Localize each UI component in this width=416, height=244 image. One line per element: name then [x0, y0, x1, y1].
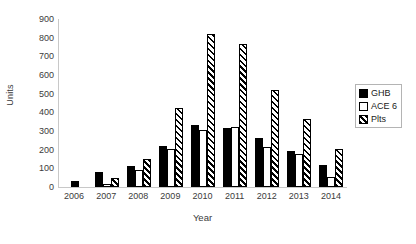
bar-ace6-2012: [263, 147, 271, 187]
bars-layer: [59, 19, 347, 187]
x-axis-title: Year: [58, 212, 347, 223]
legend-item-label: ACE 6: [371, 101, 397, 111]
y-axis-tick-label: 0: [22, 182, 54, 192]
x-axis-tick-label: 2014: [315, 191, 347, 201]
year-group: [187, 19, 219, 187]
solid-black-swatch: [359, 89, 368, 98]
x-axis-tick-label: 2011: [219, 191, 251, 201]
bar-plts-2009: [175, 108, 183, 187]
year-group: [155, 19, 187, 187]
bar-plts-2012: [271, 90, 279, 187]
bar-ace6-2009: [167, 149, 175, 187]
bar-ghb-2010: [191, 125, 199, 187]
bar-plts-2014: [335, 149, 343, 187]
year-group: [251, 19, 283, 187]
x-axis-tick-label: 2012: [251, 191, 283, 201]
bar-ace6-2010: [199, 130, 207, 187]
bar-ace6-2007: [103, 184, 111, 187]
x-axis-tick-label: 2008: [122, 191, 154, 201]
bar-plts-2007: [111, 178, 119, 187]
dotted-swatch: [359, 102, 368, 111]
x-axis-tick-label: 2013: [283, 191, 315, 201]
y-axis-title: Units: [5, 65, 15, 125]
bar-ghb-2012: [255, 138, 263, 187]
y-axis-tick-label: 200: [22, 145, 54, 155]
year-group: [91, 19, 123, 187]
x-axis-tick-labels: 200620072008200920102011201220132014: [58, 191, 347, 201]
legend-item-label: GHB: [371, 88, 391, 98]
year-group: [123, 19, 155, 187]
x-axis-tick-label: 2009: [154, 191, 186, 201]
bar-ace6-2014: [327, 177, 335, 187]
legend-item[interactable]: Plts: [359, 114, 397, 124]
bar-ghb-2007: [95, 172, 103, 187]
year-group: [315, 19, 347, 187]
y-axis-tick-label: 900: [22, 14, 54, 24]
x-axis-tick-label: 2007: [90, 191, 122, 201]
bar-ghb-2006: [71, 181, 79, 187]
bar-plts-2008: [143, 159, 151, 187]
y-axis-tick-label: 300: [22, 126, 54, 136]
bar-ghb-2008: [127, 166, 135, 187]
bar-plts-2011: [239, 44, 247, 187]
bar-ghb-2014: [319, 165, 327, 187]
x-axis-tick-label: 2006: [58, 191, 90, 201]
x-axis-tick-label: 2010: [186, 191, 218, 201]
bar-chart: Units 9008007006005004003002001000 20062…: [0, 0, 416, 244]
plot-area: [58, 19, 347, 188]
bar-ghb-2011: [223, 128, 231, 187]
bar-plts-2013: [303, 119, 311, 187]
hatched-swatch: [359, 115, 368, 124]
bar-ghb-2009: [159, 146, 167, 187]
year-group: [59, 19, 91, 187]
bar-plts-2010: [207, 34, 215, 187]
bar-ace6-2011: [231, 127, 239, 187]
chart-legend: GHBACE 6Plts: [355, 84, 402, 128]
y-axis-tick-label: 800: [22, 33, 54, 43]
y-axis-tick-labels: 9008007006005004003002001000: [22, 14, 54, 188]
y-axis-tick-label: 600: [22, 70, 54, 80]
bar-ghb-2013: [287, 151, 295, 187]
y-axis-tick-label: 400: [22, 107, 54, 117]
legend-item-label: Plts: [371, 114, 386, 124]
year-group: [219, 19, 251, 187]
legend-item[interactable]: GHB: [359, 88, 397, 98]
legend-item[interactable]: ACE 6: [359, 101, 397, 111]
y-axis-tick-label: 500: [22, 89, 54, 99]
bar-ace6-2013: [295, 154, 303, 187]
y-axis-tick-label: 100: [22, 163, 54, 173]
bar-ace6-2008: [135, 170, 143, 187]
year-group: [283, 19, 315, 187]
y-axis-tick-label: 700: [22, 51, 54, 61]
